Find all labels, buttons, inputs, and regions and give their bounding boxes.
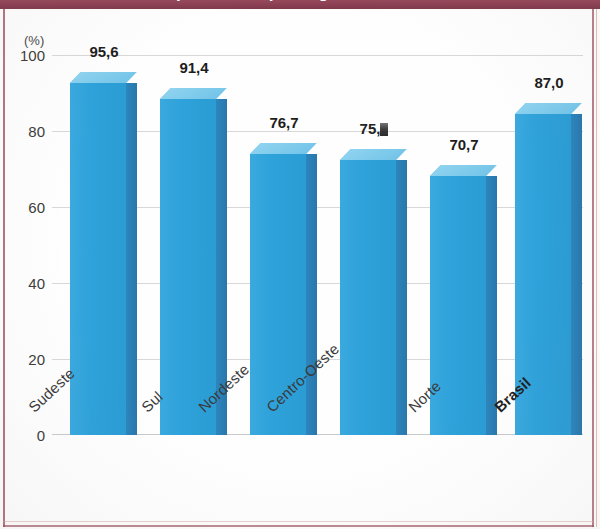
bar-value-label: 70,7 — [424, 136, 504, 153]
y-tick-label: 80 — [7, 123, 45, 140]
ink-smudge — [380, 123, 388, 136]
bar-front-face — [70, 83, 126, 435]
page-frame-bottom-outer — [3, 521, 594, 522]
bar-value-label: 95,6 — [64, 43, 144, 60]
bar-side-face — [306, 154, 317, 435]
y-axis-unit-label: (%) — [24, 33, 44, 48]
bar-value-label: 76,7 — [244, 114, 324, 131]
bar-top-face — [430, 165, 497, 176]
bar-top-face — [160, 88, 227, 99]
page-frame-right-outer — [596, 9, 597, 527]
page-frame-right — [592, 9, 594, 527]
plot-area: 95,6 91,4 76,7 75, — [52, 55, 583, 435]
page-frame-bottom — [3, 525, 594, 527]
bar-value-label: 87,0 — [509, 74, 589, 91]
y-tick-label: 20 — [7, 351, 45, 368]
clipped-title-band: Gráfico — percentual por região — [0, 0, 600, 9]
bar-sul: 91,4 — [160, 88, 216, 435]
bar-top-face — [515, 103, 582, 114]
y-axis-tick-labels: 100 80 60 40 20 0 — [5, 55, 45, 435]
bar-sudeste: 95,6 — [70, 72, 126, 435]
bar-top-face — [250, 143, 317, 154]
bar-side-face — [571, 114, 582, 435]
y-tick-label: 60 — [7, 199, 45, 216]
bar-front-face — [340, 160, 396, 435]
chart-canvas: (%) 100 80 60 40 20 0 95,6 — [5, 11, 592, 521]
y-tick-label: 40 — [7, 275, 45, 292]
y-tick-label: 0 — [7, 427, 45, 444]
bar-top-face — [340, 149, 407, 160]
bar-centro-oeste: 75, — [340, 149, 396, 435]
bar-side-face — [126, 83, 137, 435]
bar-value-text: 75, — [360, 120, 381, 137]
bar-side-face — [486, 176, 497, 435]
bar-top-face — [70, 72, 137, 83]
y-tick-label: 100 — [7, 47, 45, 64]
clipped-title-text: Gráfico — percentual por região — [88, 0, 354, 3]
bar-value-label: 75, — [334, 120, 414, 137]
bar-front-face — [160, 99, 216, 435]
bar-front-face — [430, 176, 486, 435]
bar-value-label: 91,4 — [154, 59, 234, 76]
bar-side-face — [396, 160, 407, 435]
chart-page: Gráfico — percentual por região (%) 100 … — [0, 0, 600, 529]
